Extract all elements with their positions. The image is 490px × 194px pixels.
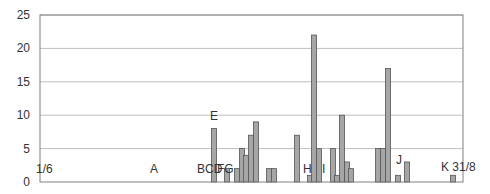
y-tick-label: 20 [17, 41, 31, 55]
gridlines [40, 15, 463, 149]
y-tick-label: 0 [23, 175, 30, 189]
annotation-label: I [322, 162, 325, 176]
bar [451, 175, 456, 182]
annotation-label: J [396, 153, 402, 167]
bar [386, 68, 391, 182]
bar [405, 162, 410, 182]
bar [272, 169, 277, 182]
bar [267, 169, 272, 182]
y-tick-label: 5 [23, 142, 30, 156]
bar [254, 122, 259, 182]
bar [349, 169, 354, 182]
bar [317, 149, 322, 182]
bar [335, 175, 340, 182]
bar [396, 175, 401, 182]
bar [244, 155, 249, 182]
annotation-label: K 31/8 [441, 160, 476, 174]
bar-chart: 0510152025 1/6ABCDFGEHIJK 31/8 [0, 0, 490, 194]
annotation-label: FG [217, 162, 234, 176]
bar [312, 35, 317, 182]
bar [381, 149, 386, 182]
y-axis-ticks: 0510152025 [17, 8, 31, 189]
bar [235, 169, 240, 182]
y-tick-label: 15 [17, 75, 31, 89]
y-tick-label: 10 [17, 108, 31, 122]
bars [212, 35, 456, 182]
bar [376, 149, 381, 182]
bar [295, 135, 300, 182]
annotation-label: H [303, 162, 312, 176]
annotation-label: 1/6 [36, 162, 53, 176]
bar [340, 115, 345, 182]
annotation-label: A [150, 162, 158, 176]
annotation-label: E [210, 109, 218, 123]
bar [249, 135, 254, 182]
y-tick-label: 25 [17, 8, 31, 22]
